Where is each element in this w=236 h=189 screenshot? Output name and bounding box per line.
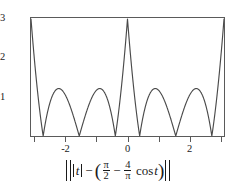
plot-area xyxy=(30,17,225,137)
y-tick-label-0.3: 0.3 xyxy=(0,13,5,23)
x-tick-label-2: 2 xyxy=(179,143,201,154)
fraction-pi-over-2: π 2 xyxy=(103,160,110,182)
y-tick-label-0.2: 0.2 xyxy=(0,52,5,62)
x-tick-mark-3 xyxy=(221,137,222,142)
x-axis-formula: t − ( π 2 − 4 π cos t ) xyxy=(0,160,236,182)
x-tick-label-0: 0 xyxy=(117,143,139,154)
fraction-numerator-4: 4 xyxy=(124,160,131,170)
fraction-denominator-pi: π xyxy=(124,170,131,181)
inner-abs-open-bar xyxy=(73,164,74,177)
x-tick-mark-0 xyxy=(128,137,129,142)
chart-figure: 0.3 0.2 0.1 -2 0 2 t − ( π 2 − 4 xyxy=(0,0,236,189)
inner-abs-close-bar xyxy=(81,164,82,177)
fraction-4-over-pi: 4 π xyxy=(124,160,131,182)
outer-abs-close-bar xyxy=(165,160,170,181)
formula-minus-sign-2: − xyxy=(113,163,120,179)
x-tick-mark--2 xyxy=(65,137,66,142)
x-tick-mark-2 xyxy=(190,137,191,142)
data-curve xyxy=(31,18,224,136)
outer-abs-open-bar xyxy=(66,160,71,181)
formula-cos-function: cos xyxy=(136,163,153,179)
fraction-denominator-2: 2 xyxy=(103,170,110,181)
x-tick-label--2: -2 xyxy=(54,143,76,154)
y-tick-label-0.1: 0.1 xyxy=(0,92,5,102)
formula-expression: t − ( π 2 − 4 π cos t ) xyxy=(65,160,172,182)
formula-minus-sign: − xyxy=(85,163,92,179)
x-tick-mark-1 xyxy=(159,137,160,142)
x-tick-mark--3 xyxy=(34,137,35,142)
fraction-numerator-pi: π xyxy=(103,160,110,170)
x-tick-mark--1 xyxy=(96,137,97,142)
formula-variable-t1: t xyxy=(76,163,80,179)
